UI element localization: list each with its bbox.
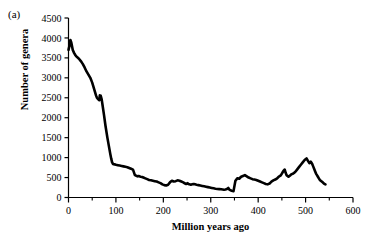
x-tick-label: 0 [66, 205, 71, 216]
y-tick-label: 500 [47, 172, 62, 183]
y-tick-label: 2500 [42, 92, 62, 103]
x-axis: 0100200300400500600 [66, 198, 361, 216]
y-tick-label: 0 [57, 192, 62, 203]
y-axis: 050010001500200025003000350040004500 [42, 13, 69, 204]
chart-plot-area: 050010001500200025003000350040004500 010… [0, 0, 375, 240]
y-tick-label: 4500 [42, 13, 62, 24]
x-tick-label: 100 [108, 205, 123, 216]
x-tick-label: 200 [156, 205, 171, 216]
y-tick-label: 4000 [42, 33, 62, 44]
y-tick-label: 1000 [42, 152, 62, 163]
series-path [69, 40, 326, 191]
figure-panel-a: (a) Number of genera Million years ago 0… [0, 0, 375, 240]
data-series-line [69, 40, 326, 191]
x-tick-label: 600 [346, 205, 361, 216]
x-tick-label: 300 [203, 205, 218, 216]
x-tick-label: 500 [298, 205, 313, 216]
x-tick-label: 400 [251, 205, 266, 216]
y-tick-label: 2000 [42, 112, 62, 123]
y-tick-label: 3500 [42, 52, 62, 63]
y-tick-label: 3000 [42, 72, 62, 83]
y-tick-label: 1500 [42, 132, 62, 143]
